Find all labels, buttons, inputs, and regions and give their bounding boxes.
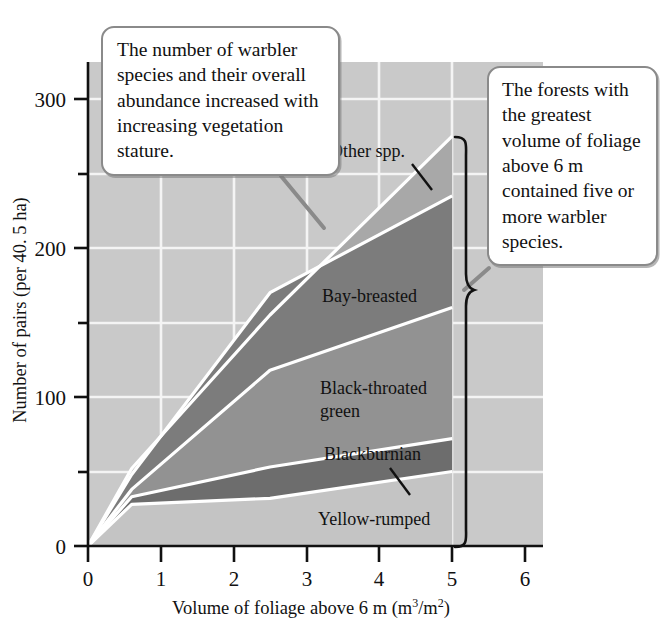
x-tick-label-6: 6 — [520, 567, 531, 591]
x-axis-title-mid: /m — [418, 598, 438, 618]
x-axis-ticks — [88, 546, 525, 562]
series-label-bay-breasted: Bay-breasted — [322, 286, 417, 306]
series-label-black-throated: Black-throated — [320, 378, 427, 398]
y-axis-tick-labels: 300 200 100 0 — [35, 88, 67, 559]
callout-right-text: The forests with the greatest volume of … — [502, 77, 646, 254]
x-axis-title: Volume of foliage above 6 m (m3/m2) — [172, 596, 450, 619]
series-label-yellow-rumped: Yellow-rumped — [318, 509, 430, 529]
x-tick-label-2: 2 — [229, 567, 240, 591]
y-tick-label-100: 100 — [35, 386, 67, 410]
x-axis-tick-labels: 0 1 2 3 4 5 6 — [83, 567, 531, 591]
y-tick-label-200: 200 — [35, 237, 67, 261]
x-tick-label-0: 0 — [83, 567, 94, 591]
y-axis-ticks — [74, 99, 88, 546]
callout-left: The number of warbler species and their … — [101, 26, 340, 176]
x-tick-label-1: 1 — [156, 567, 167, 591]
y-tick-label-300: 300 — [35, 88, 67, 112]
x-tick-label-5: 5 — [447, 567, 458, 591]
y-tick-label-0: 0 — [56, 535, 67, 559]
series-label-blackburnian: Blackburnian — [324, 444, 421, 464]
y-axis-title: Number of pairs (per 40. 5 ha) — [10, 197, 31, 423]
x-axis-title-post: ) — [444, 598, 450, 619]
x-axis-title-pre: Volume of foliage above 6 m (m — [172, 598, 413, 619]
figure-container: 300 200 100 0 0 1 2 3 4 5 6 Volume of fo… — [0, 0, 672, 627]
x-tick-label-4: 4 — [374, 567, 385, 591]
callout-right: The forests with the greatest volume of … — [487, 66, 658, 266]
series-label-other-spp: Other spp. — [330, 141, 405, 161]
series-label-black-throated-green: green — [320, 401, 360, 421]
x-tick-label-3: 3 — [302, 567, 313, 591]
callout-left-text: The number of warbler species and their … — [117, 37, 326, 164]
